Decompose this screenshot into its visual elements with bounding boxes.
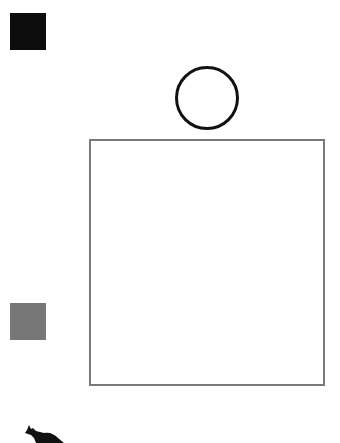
large-rectangle-outline (89, 139, 325, 386)
animal-silhouette-icon (24, 422, 84, 443)
black-square (10, 13, 46, 50)
circle-outline (175, 66, 239, 130)
gray-square (10, 303, 46, 340)
